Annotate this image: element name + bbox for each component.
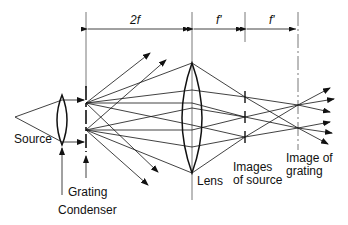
dimension-f2: f' [269,13,275,27]
diffracted-rays [86,53,192,185]
label-source: Source [14,133,52,146]
optics-diagram [0,0,348,225]
label-condenser: Condenser [58,204,117,217]
dimension-2f: 2f [130,13,140,27]
label-images-of-source-2: of source [233,174,282,187]
label-grating: Grating [68,186,107,199]
condenser-lens [57,95,67,145]
label-lens: Lens [197,175,223,188]
label-image-of-grating-2: grating [286,165,323,178]
dimension-f1: f' [216,13,222,27]
